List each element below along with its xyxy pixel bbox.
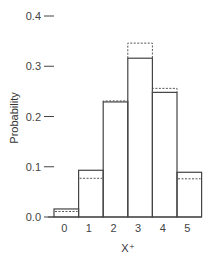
x-tick-label: 5 <box>184 222 190 234</box>
y-tick-label: 0.4 <box>26 10 41 22</box>
x-tick-label: 1 <box>86 222 92 234</box>
bar-0 <box>54 209 79 217</box>
y-tick-label: 0.3 <box>26 60 41 72</box>
bar-2 <box>103 102 128 217</box>
bar-1 <box>79 170 104 217</box>
y-tick-label: 0.0 <box>26 211 41 223</box>
x-tick-label: 4 <box>160 222 166 234</box>
x-tick-label: 3 <box>135 222 141 234</box>
y-axis: 0.00.10.20.30.4 <box>26 10 54 223</box>
dashed-bar-4 <box>152 88 177 92</box>
bar-4 <box>152 92 177 217</box>
x-axis: 012345 <box>48 217 202 234</box>
bar-3 <box>128 58 153 217</box>
y-tick-label: 0.1 <box>26 161 41 173</box>
solid-bars <box>54 58 202 217</box>
y-axis-label: Probability <box>8 92 20 144</box>
x-tick-label: 2 <box>110 222 116 234</box>
probability-histogram: 0.00.10.20.30.4 012345 Probability X⁺ <box>0 0 211 258</box>
dashed-bar-3 <box>128 43 153 58</box>
x-axis-label: X⁺ <box>121 242 134 254</box>
y-tick-label: 0.2 <box>26 111 41 123</box>
x-tick-label: 0 <box>61 222 67 234</box>
